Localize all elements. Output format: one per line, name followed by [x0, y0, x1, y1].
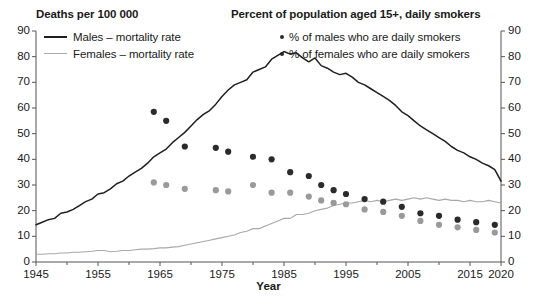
series-point [492, 229, 498, 235]
y-tick-left-90: 90 [8, 24, 30, 36]
series-point [343, 191, 349, 197]
series-point [213, 187, 219, 193]
x-tick-1975: 1975 [202, 268, 242, 280]
y-tick-left-0: 0 [8, 255, 30, 267]
series-point [399, 204, 405, 210]
series-point [455, 217, 461, 223]
series-point [436, 213, 442, 219]
series-point [269, 156, 275, 162]
series-point [473, 227, 479, 233]
series-point [331, 187, 337, 193]
series-point [318, 182, 324, 188]
x-tick-1955: 1955 [78, 268, 118, 280]
series-point [455, 224, 461, 230]
y-tick-right-0: 0 [508, 255, 530, 267]
series-point [163, 118, 169, 124]
x-tick-2020: 2020 [481, 268, 521, 280]
series-point [182, 143, 188, 149]
series-point [436, 222, 442, 228]
series-point [331, 200, 337, 206]
y-tick-left-30: 30 [8, 178, 30, 190]
y-tick-left-60: 60 [8, 101, 30, 113]
x-tick-1985: 1985 [264, 268, 304, 280]
series-point [287, 169, 293, 175]
series-point [362, 206, 368, 212]
x-axis-title: Year [0, 280, 537, 292]
series-point [182, 186, 188, 192]
series-point [343, 201, 349, 207]
series-point [417, 218, 423, 224]
y-tick-left-80: 80 [8, 50, 30, 62]
series-point [492, 222, 498, 228]
y-tick-left-40: 40 [8, 152, 30, 164]
series-point [318, 197, 324, 203]
y-tick-left-50: 50 [8, 127, 30, 139]
y-tick-right-90: 90 [508, 24, 530, 36]
series-point [362, 196, 368, 202]
series-point [380, 209, 386, 215]
y-tick-right-20: 20 [508, 204, 530, 216]
series-point [399, 213, 405, 219]
series-point [151, 179, 157, 185]
series-point [250, 154, 256, 160]
y-tick-right-10: 10 [508, 229, 530, 241]
chart-container: Deaths per 100 000 Percent of population… [0, 0, 537, 300]
y-tick-left-20: 20 [8, 204, 30, 216]
y-tick-right-50: 50 [508, 127, 530, 139]
x-tick-1995: 1995 [326, 268, 366, 280]
series-point [225, 188, 231, 194]
series-point [417, 210, 423, 216]
y-tick-left-70: 70 [8, 75, 30, 87]
series-point [250, 182, 256, 188]
y-tick-right-80: 80 [508, 50, 530, 62]
x-tick-2005: 2005 [388, 268, 428, 280]
series-point [163, 182, 169, 188]
series-line [36, 198, 501, 254]
series-point [151, 109, 157, 115]
x-tick-1965: 1965 [140, 268, 180, 280]
series-point [287, 190, 293, 196]
series-point [225, 149, 231, 155]
x-tick-1945: 1945 [16, 268, 56, 280]
y-tick-right-40: 40 [508, 152, 530, 164]
series-point [473, 219, 479, 225]
y-tick-right-60: 60 [508, 101, 530, 113]
y-tick-left-10: 10 [8, 229, 30, 241]
series-point [306, 193, 312, 199]
y-tick-right-70: 70 [508, 75, 530, 87]
series-point [269, 190, 275, 196]
series-point [380, 199, 386, 205]
series-point [306, 173, 312, 179]
plot-area [0, 0, 537, 300]
y-tick-right-30: 30 [508, 178, 530, 190]
series-point [213, 145, 219, 151]
